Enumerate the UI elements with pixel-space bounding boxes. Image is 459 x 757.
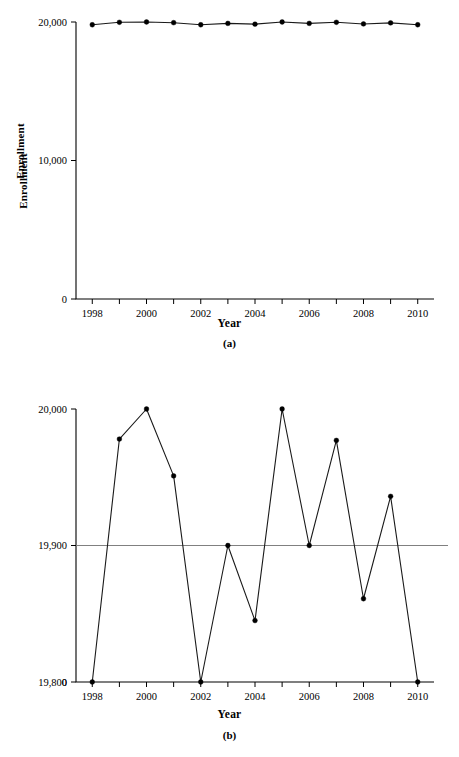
data-point-marker xyxy=(90,680,95,685)
data-point-marker xyxy=(90,22,95,27)
data-point-marker xyxy=(225,21,230,26)
data-point-marker xyxy=(144,407,149,412)
y-tick-label: 0 xyxy=(62,294,67,305)
y-axis-label-b: Enrollment xyxy=(17,136,29,226)
chart-panel-a: 010,00020,000199820002002200420062008201… xyxy=(0,0,459,380)
data-point-marker xyxy=(388,20,393,25)
data-point-marker xyxy=(361,22,366,27)
x-tick-label: 1998 xyxy=(82,691,103,702)
x-axis-label-a: Year xyxy=(0,317,459,329)
data-point-marker xyxy=(280,407,285,412)
x-tick-label: 2006 xyxy=(299,691,320,702)
data-point-marker xyxy=(361,596,366,601)
data-point-marker xyxy=(415,680,420,685)
data-point-marker xyxy=(280,20,285,25)
y-tick-label: 10,000 xyxy=(38,155,67,166)
x-tick-label: 2002 xyxy=(190,691,211,702)
axis-spine xyxy=(76,22,434,299)
data-point-marker xyxy=(144,20,149,25)
data-point-marker xyxy=(334,438,339,443)
data-point-marker xyxy=(388,494,393,499)
data-point-marker xyxy=(415,22,420,27)
data-point-marker xyxy=(225,543,230,548)
data-point-marker xyxy=(198,22,203,27)
x-tick-label: 2004 xyxy=(245,691,267,702)
data-point-marker xyxy=(307,21,312,26)
data-point-marker xyxy=(253,618,258,623)
data-point-marker xyxy=(117,437,122,442)
data-point-marker xyxy=(198,680,203,685)
y-tick-label: 20,000 xyxy=(38,404,67,415)
data-point-marker xyxy=(253,22,258,27)
data-point-marker xyxy=(171,473,176,478)
chart-b-canvas: 19,80019,90020,0000199820002002200420062… xyxy=(0,380,459,757)
data-point-marker xyxy=(307,543,312,548)
data-point-marker xyxy=(117,20,122,25)
y-tick-label: 19,900 xyxy=(38,540,67,551)
data-point-marker xyxy=(171,20,176,25)
chart-panel-b: 19,80019,90020,0000199820002002200420062… xyxy=(0,380,459,757)
x-axis-label-b: Year xyxy=(0,708,459,720)
panel-caption-a: (a) xyxy=(0,337,459,349)
data-point-marker xyxy=(334,20,339,25)
x-tick-label: 2008 xyxy=(353,691,374,702)
x-tick-label: 2000 xyxy=(136,691,157,702)
y-origin-label: 0 xyxy=(62,677,67,688)
y-tick-label: 20,000 xyxy=(38,17,67,28)
x-tick-label: 2010 xyxy=(407,691,428,702)
panel-caption-b: (b) xyxy=(0,729,459,741)
